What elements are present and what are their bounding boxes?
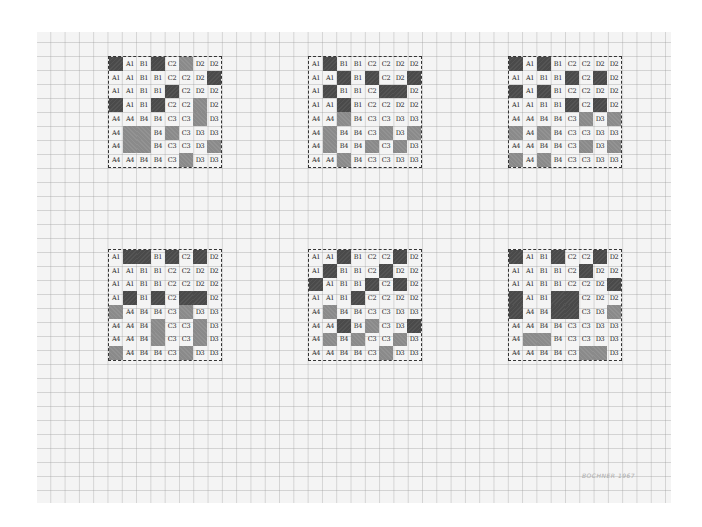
label-cell: A4 bbox=[309, 140, 323, 154]
label-cell: B1 bbox=[151, 85, 165, 99]
label-cell: C2 bbox=[365, 264, 379, 278]
shaded-cell-dark bbox=[337, 98, 351, 112]
shaded-cell-dark bbox=[165, 85, 179, 99]
shaded-cell-dark bbox=[337, 319, 351, 333]
shaded-cell-gray bbox=[337, 153, 351, 167]
label-cell: A4 bbox=[109, 126, 123, 140]
label-cell: D3 bbox=[607, 126, 621, 140]
label-cell: D2 bbox=[407, 85, 421, 99]
label-cell: C2 bbox=[165, 98, 179, 112]
label-cell: B4 bbox=[137, 319, 151, 333]
label-cell: C2 bbox=[365, 57, 379, 71]
label-cell: B1 bbox=[337, 278, 351, 292]
label-cell: B1 bbox=[537, 278, 551, 292]
label-cell: C2 bbox=[579, 250, 593, 264]
shaded-cell-dark bbox=[323, 85, 337, 99]
label-cell: B1 bbox=[151, 278, 165, 292]
shaded-cell-gray bbox=[393, 333, 407, 347]
label-cell: D3 bbox=[207, 319, 221, 333]
label-cell: A4 bbox=[309, 319, 323, 333]
label-cell: D3 bbox=[607, 333, 621, 347]
label-cell: D2 bbox=[407, 264, 421, 278]
label-cell: D3 bbox=[393, 126, 407, 140]
label-cell: A4 bbox=[523, 346, 537, 360]
shaded-cell-dark bbox=[193, 291, 207, 305]
label-cell: D3 bbox=[193, 140, 207, 154]
label-cell: D2 bbox=[593, 291, 607, 305]
label-cell: B1 bbox=[537, 71, 551, 85]
shaded-cell-dark bbox=[509, 305, 523, 319]
label-cell: D2 bbox=[607, 264, 621, 278]
label-cell: C3 bbox=[565, 140, 579, 154]
label-cell: D3 bbox=[207, 346, 221, 360]
label-cell: D3 bbox=[407, 153, 421, 167]
shaded-cell-dark bbox=[379, 264, 393, 278]
shaded-cell-dark bbox=[351, 291, 365, 305]
grid-1: A1B1C2D2D2A1A1B1B1C2C2D2A1A1B1B1C2D2D2A1… bbox=[108, 56, 222, 168]
label-cell: A4 bbox=[109, 153, 123, 167]
label-cell: C2 bbox=[365, 98, 379, 112]
label-cell: B1 bbox=[151, 250, 165, 264]
label-cell: D2 bbox=[407, 250, 421, 264]
label-cell: A4 bbox=[523, 153, 537, 167]
shaded-cell-dark bbox=[537, 57, 551, 71]
label-cell: A1 bbox=[523, 278, 537, 292]
label-cell: B1 bbox=[351, 57, 365, 71]
shaded-cell-dark bbox=[509, 57, 523, 71]
label-cell: B1 bbox=[551, 85, 565, 99]
shaded-cell-gray bbox=[537, 153, 551, 167]
label-cell: D2 bbox=[393, 71, 407, 85]
shaded-cell-dark bbox=[593, 98, 607, 112]
shaded-cell-gray bbox=[365, 140, 379, 154]
label-cell: C3 bbox=[365, 346, 379, 360]
label-cell: D3 bbox=[407, 140, 421, 154]
label-cell: A4 bbox=[123, 346, 137, 360]
label-cell: A4 bbox=[309, 305, 323, 319]
label-cell: B4 bbox=[337, 333, 351, 347]
shaded-cell-dark bbox=[179, 291, 193, 305]
shaded-cell-dark bbox=[593, 250, 607, 264]
shaded-cell-gray bbox=[607, 112, 621, 126]
label-cell: B1 bbox=[351, 278, 365, 292]
label-cell: C3 bbox=[179, 112, 193, 126]
shaded-cell-gray bbox=[579, 346, 593, 360]
label-cell: A1 bbox=[523, 291, 537, 305]
shaded-cell-dark bbox=[551, 305, 565, 319]
shaded-cell-dark bbox=[579, 264, 593, 278]
label-cell: D3 bbox=[393, 153, 407, 167]
label-cell: B4 bbox=[551, 346, 565, 360]
label-cell: C2 bbox=[579, 57, 593, 71]
shaded-cell-dark bbox=[309, 278, 323, 292]
shaded-cell-dark bbox=[137, 250, 151, 264]
shaded-cell-gray bbox=[537, 126, 551, 140]
label-cell: B4 bbox=[537, 346, 551, 360]
label-cell: D3 bbox=[607, 319, 621, 333]
label-cell: C3 bbox=[579, 126, 593, 140]
label-cell: C2 bbox=[379, 71, 393, 85]
label-cell: B1 bbox=[137, 98, 151, 112]
label-cell: A1 bbox=[523, 71, 537, 85]
shaded-cell-gray bbox=[137, 140, 151, 154]
shaded-cell-gray bbox=[323, 140, 337, 154]
label-cell: C2 bbox=[579, 71, 593, 85]
label-cell: A1 bbox=[523, 85, 537, 99]
shaded-cell-gray bbox=[193, 98, 207, 112]
label-cell: B4 bbox=[151, 112, 165, 126]
label-cell: A4 bbox=[123, 112, 137, 126]
label-cell: C3 bbox=[379, 333, 393, 347]
label-cell: C2 bbox=[579, 291, 593, 305]
label-cell: C3 bbox=[165, 153, 179, 167]
label-cell: D2 bbox=[207, 85, 221, 99]
shaded-cell-dark bbox=[123, 250, 137, 264]
label-cell: C3 bbox=[565, 333, 579, 347]
label-cell: D2 bbox=[207, 250, 221, 264]
label-cell: D3 bbox=[207, 126, 221, 140]
label-cell: C2 bbox=[165, 278, 179, 292]
label-cell: B4 bbox=[551, 140, 565, 154]
label-cell: D3 bbox=[593, 112, 607, 126]
label-cell: B1 bbox=[337, 57, 351, 71]
shaded-cell-dark bbox=[109, 57, 123, 71]
label-cell: C3 bbox=[179, 319, 193, 333]
label-cell: A1 bbox=[123, 264, 137, 278]
shaded-cell-dark bbox=[509, 85, 523, 99]
